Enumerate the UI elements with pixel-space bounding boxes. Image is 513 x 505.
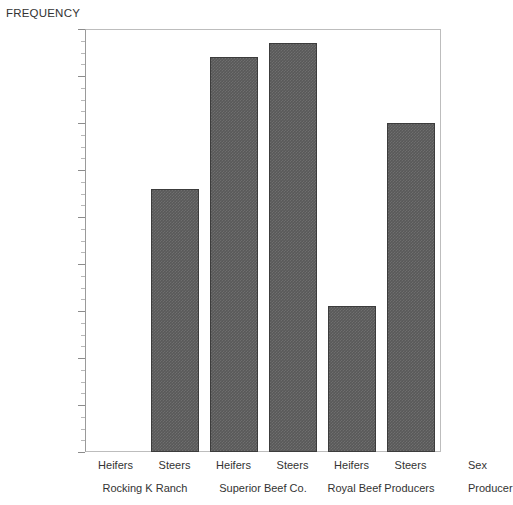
x-axis-sub-label: Heifers (204, 459, 263, 471)
x-axis-name-producer: Producer (468, 482, 513, 494)
x-axis-sub-label: Heifers (86, 459, 145, 471)
x-axis-sub-label: Heifers (322, 459, 381, 471)
x-axis-group-label: Rocking K Ranch (86, 482, 204, 494)
x-axis-sub-label: Steers (145, 459, 204, 471)
x-axis-group-label: Royal Beef Producers (322, 482, 440, 494)
x-axis-name-sex: Sex (468, 459, 487, 471)
x-axis-group-label: Superior Beef Co. (204, 482, 322, 494)
x-axis-sub-label: Steers (263, 459, 322, 471)
x-axis-sub-label: Steers (381, 459, 440, 471)
